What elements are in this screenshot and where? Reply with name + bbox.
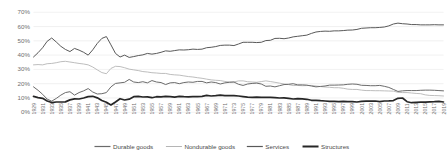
x-tick-label: 2009	[395, 103, 401, 115]
data-series-group	[34, 23, 444, 105]
series-line-services	[34, 23, 444, 57]
x-tick-label: 1985	[286, 103, 292, 115]
x-tick-label: 1929	[31, 103, 37, 115]
x-tick-label: 1981	[267, 103, 273, 115]
y-tick-label: 0%	[21, 108, 30, 115]
x-tick-label: 1987	[295, 103, 301, 115]
x-tick-label: 1995	[331, 103, 337, 115]
x-tick-label: 1931	[40, 103, 46, 115]
chart-canvas: 0%10%20%30%40%50%60%70% 1929193119331935…	[0, 0, 447, 158]
x-tick-label: 1973	[231, 103, 237, 115]
x-tick-label: 1933	[49, 103, 55, 115]
y-tick-label: 50%	[18, 37, 31, 44]
x-tick-label: 1947	[113, 103, 119, 115]
x-tick-label: 1955	[149, 103, 155, 115]
x-tick-label: 1993	[322, 103, 328, 115]
x-tick-label: 1943	[94, 103, 100, 115]
y-tick-label: 60%	[18, 23, 31, 30]
x-tick-label: 2001	[359, 103, 365, 115]
x-tick-label: 1971	[222, 103, 228, 115]
x-tick-label: 2007	[386, 103, 392, 115]
line-chart: 0%10%20%30%40%50%60%70% 1929193119331935…	[0, 0, 447, 158]
x-tick-label: 1991	[313, 103, 319, 115]
y-tick-label: 20%	[18, 80, 31, 87]
y-tick-label: 10%	[18, 94, 31, 101]
y-tick-label: 70%	[18, 8, 31, 15]
x-tick-label: 2017	[431, 103, 437, 115]
chart-svg: 0%10%20%30%40%50%60%70% 1929193119331935…	[0, 0, 447, 158]
x-tick-label: 1975	[240, 103, 246, 115]
x-tick-label: 2013	[413, 103, 419, 115]
x-tick-label: 1997	[340, 103, 346, 115]
legend-label-structures: Structures	[321, 143, 349, 150]
x-tick-label: 1937	[67, 103, 73, 115]
x-tick-label: 1941	[85, 103, 91, 115]
x-tick-label: 1979	[258, 103, 264, 115]
chart-legend: Durable goodsNondurable goodsServicesStr…	[94, 143, 349, 150]
x-tick-label: 1949	[122, 103, 128, 115]
x-tick-label: 1989	[304, 103, 310, 115]
x-tick-label: 1935	[58, 103, 64, 115]
x-tick-label: 2015	[422, 103, 428, 115]
x-tick-label: 2005	[377, 103, 383, 115]
x-tick-label: 2011	[404, 103, 410, 114]
y-tick-label: 30%	[18, 65, 31, 72]
x-tick-label: 1969	[213, 103, 219, 115]
x-tick-label: 2003	[368, 103, 374, 115]
x-tick-label: 1951	[131, 103, 137, 115]
x-tick-label: 1945	[103, 103, 109, 115]
series-line-nondurable-goods	[34, 61, 444, 96]
legend-label-services: Services	[265, 143, 289, 150]
x-tick-label: 1953	[140, 103, 146, 115]
x-tick-label: 1967	[204, 103, 210, 115]
x-tick-label: 1999	[349, 103, 355, 115]
x-tick-label: 1965	[195, 103, 201, 115]
x-tick-label: 2019	[441, 103, 447, 115]
legend-label-nondurable-goods: Nondurable goods	[184, 143, 235, 150]
x-tick-label: 1959	[167, 103, 173, 115]
x-tick-label: 1961	[176, 103, 182, 115]
legend-label-durable-goods: Durable goods	[113, 143, 153, 150]
x-tick-label: 1963	[185, 103, 191, 115]
y-axis-tick-labels: 0%10%20%30%40%50%60%70%	[18, 8, 31, 115]
x-tick-label: 1939	[76, 103, 82, 115]
x-tick-label: 1983	[277, 103, 283, 115]
y-tick-label: 40%	[18, 51, 31, 58]
x-axis-tick-labels: 1929193119331935193719391941194319451947…	[31, 103, 447, 115]
x-tick-label: 1957	[158, 103, 164, 115]
x-tick-label: 1977	[249, 103, 255, 115]
